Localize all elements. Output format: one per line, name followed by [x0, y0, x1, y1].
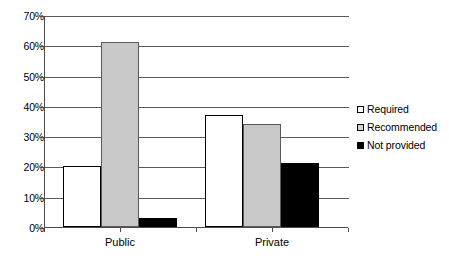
legend-item-label: Not provided: [367, 140, 425, 151]
bar-chart: 0%10%20%30%40%50%60%70% PublicPrivate Re…: [0, 0, 449, 260]
x-axis-tick-mark: [272, 228, 273, 232]
y-axis-tick-label: 70%: [8, 11, 44, 22]
legend-item-label: Required: [367, 104, 409, 115]
x-axis-tick-mark: [348, 228, 349, 232]
y-axis-tick-label: 0%: [8, 223, 44, 234]
bar-private-notprovided: [281, 163, 319, 227]
bar-public-notprovided: [139, 218, 177, 227]
y-axis-tick-label: 60%: [8, 41, 44, 52]
legend-item-required[interactable]: Required: [357, 100, 449, 118]
gridline: [45, 16, 349, 17]
y-axis-tick-label: 40%: [8, 102, 44, 113]
gridline: [45, 107, 349, 108]
x-axis-tick-label: Private: [255, 236, 289, 248]
gridline: [45, 137, 349, 138]
y-axis-tick-label: 10%: [8, 193, 44, 204]
y-axis-tick-label: 30%: [8, 132, 44, 143]
gridline: [45, 46, 349, 47]
bar-private-recommended: [243, 124, 281, 227]
x-axis-tick-label: Public: [105, 236, 135, 248]
bar-private-required: [205, 115, 243, 227]
legend-swatch-icon: [357, 106, 364, 113]
gridline: [45, 77, 349, 78]
chart-legend: RequiredRecommendedNot provided: [357, 100, 449, 154]
x-axis-tick-mark: [120, 228, 121, 232]
bar-public-required: [63, 166, 101, 227]
legend-swatch-icon: [357, 142, 364, 149]
bar-public-recommended: [101, 42, 139, 227]
legend-swatch-icon: [357, 124, 364, 131]
legend-item-recommended[interactable]: Recommended: [357, 118, 449, 136]
legend-item-label: Recommended: [367, 122, 437, 133]
x-axis: PublicPrivate: [44, 228, 348, 256]
y-axis-tick-label: 20%: [8, 162, 44, 173]
plot-area: [44, 16, 348, 228]
legend-item-notprovided[interactable]: Not provided: [357, 136, 449, 154]
x-axis-tick-mark: [196, 228, 197, 232]
y-axis-tick-label: 50%: [8, 72, 44, 83]
x-axis-tick-mark: [44, 228, 45, 232]
y-axis: 0%10%20%30%40%50%60%70%: [0, 16, 44, 228]
